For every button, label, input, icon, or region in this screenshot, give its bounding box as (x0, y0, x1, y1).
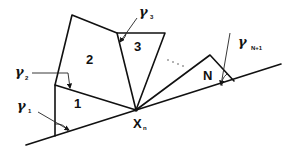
block-1-label: 1 (74, 96, 81, 111)
base-slope-line (26, 64, 281, 145)
gamma-2-symbol: γ (15, 64, 25, 79)
gamma-1-leader (38, 112, 69, 130)
gamma-n1-leader (221, 33, 230, 85)
gamma-3-symbol: γ (139, 4, 149, 19)
block-1-outline (55, 85, 136, 136)
block-2-outline (55, 15, 136, 110)
block-3-label: 3 (134, 39, 141, 54)
block-N-label: N (203, 68, 212, 83)
block-N-outline (136, 55, 234, 110)
ellipsis-dots (167, 59, 184, 67)
gamma-n1-subscript: N+1 (251, 45, 263, 51)
gamma-3-subscript: 3 (150, 14, 154, 20)
block-2-label: 2 (86, 52, 93, 67)
diagram-canvas: 1 2 3 N X n γ 1 γ 2 γ 3 γ N+1 (0, 0, 297, 155)
xn-label: X (133, 116, 142, 131)
gamma-1-arc (55, 124, 68, 131)
gamma-2-arrow (68, 73, 70, 88)
xn-subscript: n (143, 125, 147, 131)
gamma-n1-symbol: γ (238, 34, 248, 49)
gamma-1-subscript: 1 (28, 108, 32, 114)
xn-point-dot (134, 108, 138, 112)
gamma-1-symbol: γ (17, 98, 27, 113)
gamma-2-subscript: 2 (25, 75, 29, 81)
